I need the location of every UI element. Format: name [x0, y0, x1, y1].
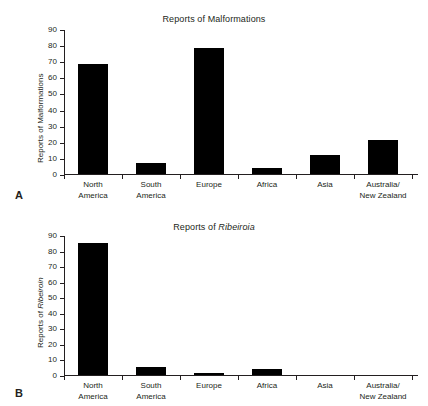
y-tick-label: 30 [48, 121, 57, 132]
y-tick-label: 60 [48, 277, 57, 288]
chart-panel-a: Reports of Malformations 010203040506070… [0, 0, 428, 208]
x-axis-label: Asia [296, 380, 354, 391]
y-tick-label: 0 [53, 370, 57, 381]
bar [310, 155, 340, 174]
chart-b-title-prefix: Reports of [173, 222, 218, 232]
x-axis-label: SouthAmerica [122, 179, 180, 201]
x-axis-label-line2: New Zealand [354, 190, 412, 201]
chart-a-title-suffix: Malformations [208, 14, 266, 24]
x-axis-label: Asia [296, 179, 354, 190]
x-tick-mark [412, 376, 413, 380]
y-tick-label: 20 [48, 137, 57, 148]
panel-letter-a: A [15, 189, 23, 201]
panel-letter-b: B [15, 387, 23, 399]
chart-b-y-axis-title: Reports of Ribeiroin [36, 277, 46, 348]
x-axis-label-line1: Australia/ [354, 380, 412, 391]
chart-b-ylabel-prefix: Reports of [36, 309, 45, 348]
x-axis-label-line1: Africa [238, 179, 296, 190]
x-axis-label: NorthAmerica [64, 380, 122, 402]
y-tick-label: 50 [48, 88, 57, 99]
x-axis-label-line2: New Zealand [354, 391, 412, 402]
chart-a-x-labels: NorthAmericaSouthAmericaEuropeAfricaAsia… [64, 179, 412, 209]
y-tick-label: 0 [53, 169, 57, 180]
x-axis-label-line2: America [64, 391, 122, 402]
bar [136, 163, 166, 174]
chart-b-x-labels: NorthAmericaSouthAmericaEuropeAfricaAsia… [64, 380, 412, 406]
x-axis-label-line2: America [64, 190, 122, 201]
x-axis-label: Australia/New Zealand [354, 179, 412, 201]
chart-b-plot-area: 0102030405060708090 [64, 236, 412, 376]
chart-b-bars [64, 236, 412, 376]
bar [194, 373, 224, 375]
y-tick-label: 40 [48, 308, 57, 319]
y-tick-label: 90 [48, 230, 57, 241]
y-tick-label: 80 [48, 40, 57, 51]
x-axis-label-line1: South [122, 179, 180, 190]
y-tick-label: 60 [48, 72, 57, 83]
chart-a-title-prefix: Reports of [163, 14, 208, 24]
x-axis-label-line2: America [122, 190, 180, 201]
chart-b-title: Reports of Ribeiroia [0, 222, 428, 232]
chart-a-bars [64, 30, 412, 175]
x-tick-mark [412, 175, 413, 179]
x-axis-label: SouthAmerica [122, 380, 180, 402]
y-tick-label: 40 [48, 105, 57, 116]
x-axis-label-line1: South [122, 380, 180, 391]
bar [194, 48, 224, 174]
y-tick-label: 30 [48, 323, 57, 334]
x-axis-label-line1: Africa [238, 380, 296, 391]
bar [252, 369, 282, 375]
y-tick-label: 70 [48, 261, 57, 272]
y-tick-label: 80 [48, 246, 57, 257]
bar [78, 243, 108, 375]
bar [368, 140, 398, 174]
y-tick-label: 20 [48, 339, 57, 350]
x-axis-label-line1: Asia [296, 179, 354, 190]
bar [252, 168, 282, 174]
x-axis-label-line1: Europe [180, 179, 238, 190]
chart-a-title: Reports of Malformations [0, 14, 428, 24]
y-tick-label: 10 [48, 153, 57, 164]
chart-a-ylabel-suffix: Malformations [36, 74, 45, 124]
x-axis-label-line1: Asia [296, 380, 354, 391]
chart-b-title-species: Ribeiroia [218, 222, 254, 232]
x-axis-label-line1: North [64, 179, 122, 190]
x-axis-label: Europe [180, 179, 238, 190]
x-axis-label: Africa [238, 179, 296, 190]
x-axis-label-line2: America [122, 391, 180, 402]
chart-a-ylabel-prefix: Reports of [36, 124, 45, 163]
x-axis-label: Australia/New Zealand [354, 380, 412, 402]
bar [136, 367, 166, 375]
x-axis-label-line1: Australia/ [354, 179, 412, 190]
x-axis-label-line1: Europe [180, 380, 238, 391]
chart-panel-b: Reports of Ribeiroia 0102030405060708090… [0, 208, 428, 406]
chart-a-plot-area: 0102030405060708090 [64, 30, 412, 175]
x-axis-label-line1: North [64, 380, 122, 391]
x-axis-label: Africa [238, 380, 296, 391]
bar [78, 64, 108, 174]
chart-a-y-axis-title: Reports of Malformations [36, 74, 46, 163]
x-axis-label: NorthAmerica [64, 179, 122, 201]
x-axis-label: Europe [180, 380, 238, 391]
y-tick-label: 10 [48, 354, 57, 365]
chart-b-ylabel-species: Ribeiroin [36, 277, 45, 309]
y-tick-label: 50 [48, 292, 57, 303]
y-tick-label: 90 [48, 24, 57, 35]
y-tick-label: 70 [48, 56, 57, 67]
